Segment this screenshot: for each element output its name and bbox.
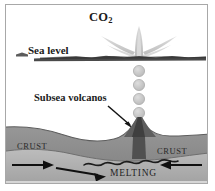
subsea-volcanos-label: Subsea volcanos [34, 93, 107, 104]
sea-level-label: Sea level [28, 45, 69, 56]
bottom-shading-strip [6, 181, 208, 184]
diagram-frame: CO2 Sea level Subsea volcanos CRUST CRUS… [5, 4, 208, 184]
bubble-1-icon [133, 65, 144, 76]
crust-label-left: CRUST [17, 141, 47, 151]
melting-label: MELTING [110, 168, 157, 178]
magma-conduit-lower [132, 137, 146, 159]
co2-label-text: CO [89, 10, 108, 24]
bubble-2-icon [133, 79, 144, 90]
bubble-4-icon [133, 107, 144, 118]
co2-label-subscript: 2 [108, 15, 112, 25]
volcano-co2-diagram: CO2 Sea level Subsea volcanos CRUST CRUS… [0, 0, 215, 191]
crust-label-right: CRUST [157, 146, 187, 156]
bubble-3-icon [133, 93, 144, 104]
co2-label: CO2 [89, 11, 113, 24]
